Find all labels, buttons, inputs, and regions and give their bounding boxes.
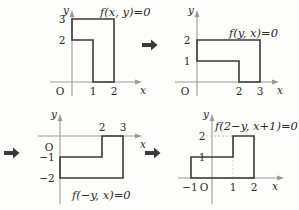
transformation-figure: f(x, y)=0 3 2 1 2 O x y f(y, x)=0 2 1 2 bbox=[0, 0, 299, 210]
y-tick-label-1: 1 bbox=[199, 151, 206, 163]
x-axis-arrowhead bbox=[277, 176, 284, 181]
right-arrow-icon-3 bbox=[145, 146, 161, 160]
right-arrow-icon-1 bbox=[142, 38, 158, 52]
panel-top-right-plot: f(y, x)=0 2 1 2 3 O x y bbox=[167, 4, 292, 100]
right-arrow-icon-2 bbox=[4, 146, 20, 160]
equation-label: f(2−y, x+1)=0 bbox=[214, 119, 298, 133]
arrow-glyph-2 bbox=[4, 146, 20, 160]
arrow-glyph-1 bbox=[142, 38, 158, 52]
x-tick-label-minus1: −1 bbox=[182, 181, 197, 193]
x-tick-label-2: 2 bbox=[236, 85, 243, 97]
y-axis-label: y bbox=[187, 4, 195, 16]
region-polygon bbox=[197, 40, 260, 82]
x-tick-label-3: 3 bbox=[120, 121, 127, 133]
x-tick-label-2: 2 bbox=[251, 181, 258, 193]
y-axis-arrowhead bbox=[70, 10, 75, 17]
panel-bottom-left: 2 3 O −1 −2 f(−y, x)=0 x y bbox=[30, 108, 155, 208]
origin-label: O bbox=[56, 85, 65, 97]
x-axis-label: x bbox=[140, 84, 146, 96]
region-polygon bbox=[72, 19, 114, 82]
arrow-glyph-3 bbox=[145, 146, 161, 160]
panel-bottom-right-plot: f(2−y, x+1)=0 2 1 −1 O 1 2 x y bbox=[168, 108, 298, 208]
x-tick-label-2: 2 bbox=[111, 85, 118, 97]
x-tick-label-2: 2 bbox=[99, 121, 106, 133]
x-tick-label-3: 3 bbox=[257, 85, 264, 97]
equation-label: f(y, x)=0 bbox=[228, 26, 278, 40]
x-tick-label-1: 1 bbox=[90, 85, 97, 97]
panel-bottom-right: f(2−y, x+1)=0 2 1 −1 O 1 2 x y bbox=[168, 108, 298, 208]
x-axis-label: x bbox=[272, 180, 278, 192]
y-axis-label: y bbox=[50, 108, 58, 120]
y-axis-arrowhead bbox=[210, 114, 215, 121]
y-tick-label-minus2: −2 bbox=[39, 172, 54, 184]
y-tick-label-minus1: −1 bbox=[39, 151, 54, 163]
y-tick-label-2: 2 bbox=[199, 130, 206, 142]
panel-top-right: f(y, x)=0 2 1 2 3 O x y bbox=[167, 4, 292, 100]
y-tick-label-1: 1 bbox=[184, 55, 191, 67]
region-polygon bbox=[60, 136, 123, 178]
origin-label: O bbox=[181, 85, 190, 97]
x-axis-label: x bbox=[277, 84, 283, 96]
y-axis-arrowhead bbox=[58, 114, 63, 121]
panel-top-left: f(x, y)=0 3 2 1 2 O x y bbox=[42, 4, 152, 100]
panel-top-left-plot: f(x, y)=0 3 2 1 2 O x y bbox=[42, 4, 152, 100]
y-tick-label-2: 2 bbox=[59, 34, 66, 46]
y-axis-arrowhead bbox=[195, 10, 200, 17]
equation-label: f(−y, x)=0 bbox=[71, 188, 131, 202]
y-axis-label: y bbox=[202, 108, 210, 120]
y-axis-label: y bbox=[62, 4, 70, 16]
x-tick-label-1: 1 bbox=[230, 181, 237, 193]
panel-bottom-left-plot: 2 3 O −1 −2 f(−y, x)=0 x y bbox=[30, 108, 155, 208]
y-tick-label-2: 2 bbox=[184, 34, 191, 46]
origin-label: O bbox=[200, 181, 209, 193]
equation-label: f(x, y)=0 bbox=[99, 5, 150, 19]
